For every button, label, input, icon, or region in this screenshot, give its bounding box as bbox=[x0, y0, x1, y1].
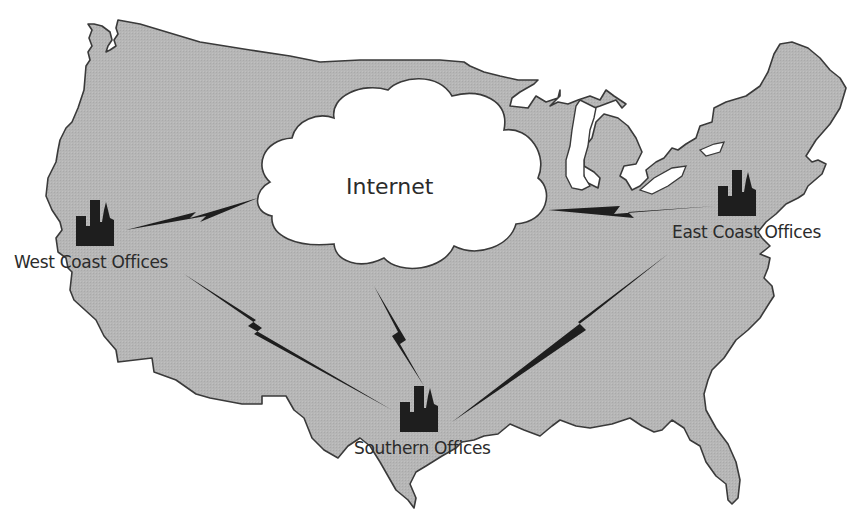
internet-label: Internet bbox=[346, 174, 433, 199]
east-coast-offices-label: East Coast Offices bbox=[672, 222, 821, 242]
network-diagram: Internet West Coast Offices East Coast O… bbox=[0, 0, 862, 528]
west-coast-offices-label: West Coast Offices bbox=[14, 252, 168, 272]
southern-offices-label: Southern Offices bbox=[354, 438, 491, 458]
